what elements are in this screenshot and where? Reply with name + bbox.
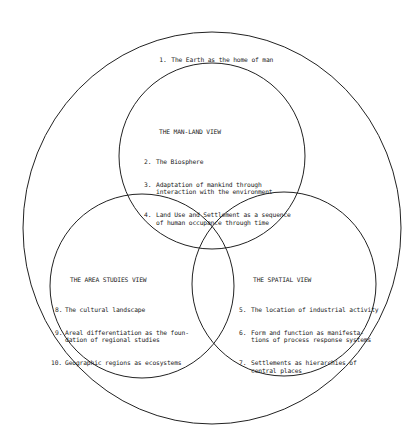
item-number: 1. <box>159 56 171 64</box>
spatial-view-block: THE SPATIAL VIEW 5. The location of indu… <box>239 261 378 382</box>
list-item: 3. Adaptation of mankind throughinteract… <box>144 181 291 196</box>
area-studies-view-block: THE AREA STUDIES VIEW 8. The cultural la… <box>55 261 189 374</box>
list-item: 8. The cultural landscape <box>55 306 189 314</box>
list-item: 5. The location of industrial activity <box>239 306 378 314</box>
list-item: 2. The Biosphere <box>144 158 291 166</box>
man-land-view-title: THE MAN-LAND VIEW <box>144 128 291 136</box>
man-land-view-block: THE MAN-LAND VIEW 2. The Biosphere 3. Ad… <box>144 113 291 234</box>
spatial-view-title: THE SPATIAL VIEW <box>239 276 378 284</box>
area-studies-view-title: THE AREA STUDIES VIEW <box>55 276 189 284</box>
list-item: 6. Form and function as manifesta-tions … <box>239 329 378 344</box>
list-item: 7. Settlements as hierarchies ofcentral … <box>239 359 378 374</box>
outer-item-1: 1.The Earth as the home of man <box>152 48 273 63</box>
list-item: 4. Land Use and Settlement as a sequence… <box>144 211 291 226</box>
list-item: 9. Areal differentiation as the foun-dat… <box>55 329 189 344</box>
item-text: The Earth as the home of man <box>171 56 273 63</box>
list-item: 10. Geographic regions as ecosystems <box>51 359 189 367</box>
